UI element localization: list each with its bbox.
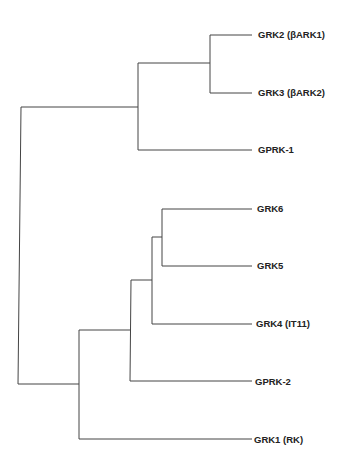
tree-branch (162, 209, 252, 266)
leaf-label-grk6: GRK6 (257, 204, 283, 214)
leaf-label-grk1: GRK1 (RK) (254, 435, 303, 445)
tree-branch (130, 280, 252, 381)
tree-diagram (0, 0, 341, 464)
tree-branch (152, 237, 252, 324)
leaf-label-grk2: GRK2 (βARK1) (258, 30, 325, 40)
leaf-label-gprk1: GPRK-1 (258, 145, 294, 155)
leaf-label-gprk2: GPRK-2 (255, 377, 291, 387)
tree-branch (79, 330, 252, 439)
leaf-label-grk4: GRK4 (IT11) (256, 319, 310, 329)
tree-branch (210, 35, 252, 93)
leaf-label-grk5: GRK5 (257, 261, 283, 271)
leaf-label-grk3: GRK3 (βARK2) (258, 88, 325, 98)
tree-branch (138, 63, 252, 150)
tree-branch (18, 107, 138, 384)
